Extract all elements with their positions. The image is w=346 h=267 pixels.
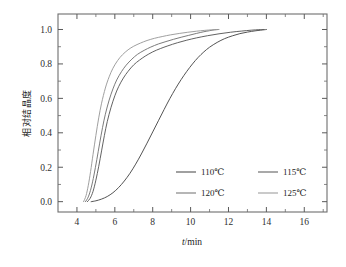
x-axis-tick-labels: 46810121416 bbox=[75, 217, 310, 227]
legend-label-115: 115℃ bbox=[283, 167, 306, 177]
y-tick-label: 0.4 bbox=[40, 128, 52, 138]
crystallinity-line-chart: 46810121416 0.00.20.40.60.81.0 110℃115℃1… bbox=[0, 0, 346, 267]
y-axis-tick-labels: 0.00.20.40.60.81.0 bbox=[40, 25, 52, 207]
x-tick-label: 6 bbox=[112, 217, 117, 227]
y-axis-title: 相对结晶度 bbox=[21, 90, 32, 137]
x-tick-label: 8 bbox=[150, 217, 155, 227]
x-tick-label: 10 bbox=[186, 217, 196, 227]
legend-label-125: 125℃ bbox=[283, 188, 307, 198]
y-tick-label: 0.6 bbox=[40, 94, 52, 104]
x-tick-label: 16 bbox=[300, 217, 310, 227]
chart-figure: 46810121416 0.00.20.40.60.81.0 110℃115℃1… bbox=[0, 0, 346, 267]
x-tick-label: 12 bbox=[224, 217, 234, 227]
x-tick-label: 4 bbox=[75, 217, 80, 227]
x-tick-label: 14 bbox=[262, 217, 272, 227]
legend-label-120: 120℃ bbox=[201, 188, 225, 198]
x-axis-title: t/min bbox=[182, 237, 202, 247]
y-tick-label: 0.0 bbox=[40, 197, 52, 207]
legend-label-110: 110℃ bbox=[201, 167, 224, 177]
y-tick-label: 1.0 bbox=[40, 25, 52, 35]
y-tick-label: 0.8 bbox=[40, 59, 52, 69]
plot-background bbox=[58, 14, 327, 212]
y-tick-label: 0.2 bbox=[40, 163, 52, 173]
